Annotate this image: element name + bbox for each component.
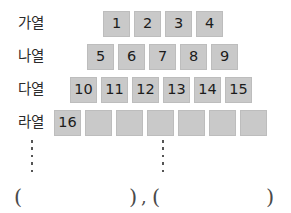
row-cells-na: 5 6 7 8 9: [87, 43, 238, 70]
number-cell: 11: [101, 77, 128, 103]
answer-blank-1-close-paren: ): [129, 183, 137, 211]
number-cell: 10: [70, 77, 97, 103]
number-cell: 5: [87, 44, 114, 70]
dot: [31, 147, 34, 150]
answer-blank-2-open-paren: (: [152, 183, 160, 211]
continuation-dots-left: [30, 140, 34, 172]
answer-blank-1-open-paren: (: [14, 183, 22, 211]
number-cell: 14: [194, 77, 221, 103]
dot: [162, 155, 165, 158]
dot: [162, 162, 165, 165]
empty-cell: [116, 110, 143, 136]
dot: [31, 140, 34, 143]
row-cells-ra: 16: [54, 109, 267, 136]
answer-blanks-row: ( ) , ( ): [0, 183, 291, 211]
dot: [31, 155, 34, 158]
number-cell: 2: [134, 11, 161, 37]
dot: [162, 170, 165, 173]
number-cell: 13: [163, 77, 190, 103]
number-cell: 12: [132, 77, 159, 103]
row-label-ga: 가열: [18, 10, 64, 37]
number-cell: 3: [165, 11, 192, 37]
answer-blank-separator: ,: [141, 183, 147, 211]
dot: [31, 170, 34, 173]
number-cell: 16: [54, 110, 81, 136]
number-cell: 15: [225, 77, 252, 103]
empty-cell: [85, 110, 112, 136]
empty-cell: [178, 110, 205, 136]
empty-cell: [147, 110, 174, 136]
number-cell: 1: [103, 11, 130, 37]
row-cells-da: 10 11 12 13 14 15: [70, 76, 252, 103]
row-label-da: 다열: [18, 76, 64, 103]
number-cell: 8: [180, 44, 207, 70]
worksheet-page: 가열 1 2 3 4 나열 5 6 7 8 9 다열 10 11 12 13 1…: [0, 0, 291, 213]
number-cell: 6: [118, 44, 145, 70]
row-label-na: 나열: [18, 43, 64, 70]
dot: [162, 140, 165, 143]
empty-cell: [240, 110, 267, 136]
dot: [162, 147, 165, 150]
row-cells-ga: 1 2 3 4: [103, 10, 223, 37]
dot: [31, 162, 34, 165]
number-cell: 7: [149, 44, 176, 70]
number-cell: 9: [211, 44, 238, 70]
number-cell: 4: [196, 11, 223, 37]
empty-cell: [209, 110, 236, 136]
continuation-dots-right: [161, 140, 165, 172]
answer-blank-2-close-paren: ): [266, 183, 274, 211]
